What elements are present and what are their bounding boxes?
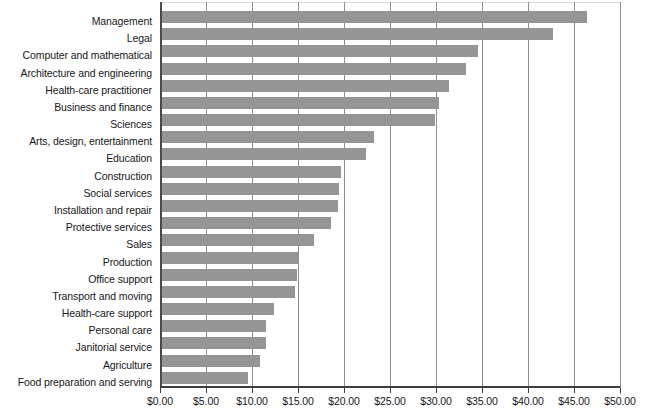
x-axis-tick [574, 388, 575, 393]
bar [161, 320, 266, 332]
x-axis-tick [620, 388, 621, 393]
bar [161, 11, 587, 23]
bar [161, 303, 274, 315]
gridline [528, 2, 529, 386]
bar [161, 200, 338, 212]
x-axis-tick-label: $20.00 [328, 395, 360, 407]
y-axis-category-label: Management [92, 15, 152, 27]
x-axis-tick [298, 388, 299, 393]
y-axis-line [160, 2, 162, 386]
bar [161, 45, 478, 57]
x-axis-tick-label: $10.00 [236, 395, 268, 407]
x-axis-tick [344, 388, 345, 393]
bar [161, 269, 297, 281]
x-axis-tick [206, 388, 207, 393]
y-axis-category-label: Computer and mathematical [23, 49, 152, 61]
y-axis-category-label: Health-care support [62, 307, 152, 319]
gridline [574, 2, 575, 386]
y-axis-category-label: Arts, design, entertainment [29, 135, 152, 147]
y-axis-category-label: Office support [88, 273, 152, 285]
x-axis-tick-label: $5.00 [193, 395, 219, 407]
bar [161, 337, 266, 349]
y-axis-category-label: Protective services [66, 221, 152, 233]
x-axis-tick-label: $30.00 [420, 395, 452, 407]
bar [161, 28, 553, 40]
bar [161, 234, 314, 246]
x-axis-tick-label: $50.00 [604, 395, 636, 407]
gridline [436, 2, 437, 386]
bar [161, 183, 339, 195]
bar [161, 97, 439, 109]
y-axis-category-label: Agriculture [103, 359, 152, 371]
x-axis-tick-label: $45.00 [558, 395, 590, 407]
y-axis-category-label: Food preparation and serving [18, 376, 152, 388]
y-axis-category-label: Sales [126, 238, 152, 250]
y-axis-category-label: Janitorial service [76, 341, 152, 353]
x-axis-tick-label: $0.00 [147, 395, 173, 407]
bar [161, 217, 331, 229]
gridline [390, 2, 391, 386]
x-axis-tick [390, 388, 391, 393]
y-axis-category-label: Legal [127, 32, 152, 44]
y-axis-category-label: Transport and moving [52, 290, 152, 302]
x-axis-tick [160, 388, 161, 393]
bar [161, 131, 374, 143]
y-axis-category-label: Production [103, 256, 152, 268]
x-axis-tick [436, 388, 437, 393]
y-axis-category-labels: ManagementLegalComputer and mathematical… [0, 6, 156, 384]
y-axis-category-label: Personal care [89, 324, 152, 336]
bar [161, 372, 248, 384]
y-axis-category-label: Installation and repair [54, 204, 152, 216]
x-axis-tick-label: $40.00 [512, 395, 544, 407]
y-axis-category-label: Health-care practitioner [45, 84, 152, 96]
x-axis-tick [528, 388, 529, 393]
x-axis-tick-label: $15.00 [282, 395, 314, 407]
plot-right-border [620, 2, 621, 394]
bar [161, 114, 435, 126]
y-axis-category-label: Business and finance [54, 101, 152, 113]
x-axis-tick [482, 388, 483, 393]
bar [161, 80, 449, 92]
bar [161, 286, 295, 298]
bar [161, 148, 366, 160]
gridline [344, 2, 345, 386]
gridline [482, 2, 483, 386]
plot-area: $0.00$5.00$10.00$15.00$20.00$25.00$30.00… [160, 2, 621, 386]
x-axis-tick-label: $35.00 [466, 395, 498, 407]
bar [161, 166, 341, 178]
y-axis-category-label: Social services [83, 187, 152, 199]
bar [161, 252, 298, 264]
x-axis-tick-label: $25.00 [374, 395, 406, 407]
bar-chart: ManagementLegalComputer and mathematical… [0, 0, 645, 413]
x-axis-tick [252, 388, 253, 393]
bar [161, 355, 260, 367]
bar [161, 63, 466, 75]
y-axis-category-label: Architecture and engineering [21, 67, 152, 79]
y-axis-category-label: Education [106, 152, 152, 164]
y-axis-category-label: Sciences [110, 118, 152, 130]
y-axis-category-label: Construction [94, 170, 152, 182]
